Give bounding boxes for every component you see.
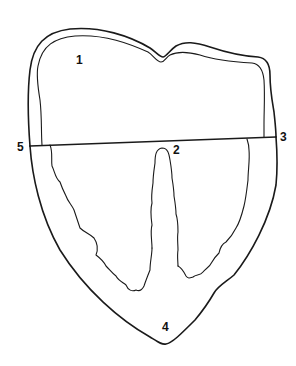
inner-wall-lower-right [178,139,249,278]
label-3: 3 [280,131,287,143]
inner-wall-lower-left [50,145,152,291]
papillary-muscle [151,148,178,266]
label-1: 1 [76,54,83,66]
heart-diagram [0,0,296,366]
label-2: 2 [173,144,180,156]
label-5: 5 [17,141,24,153]
label-4: 4 [162,321,169,333]
divider-line [30,137,276,146]
outer-wall-upper [28,28,276,146]
outer-wall-lower [30,137,277,344]
